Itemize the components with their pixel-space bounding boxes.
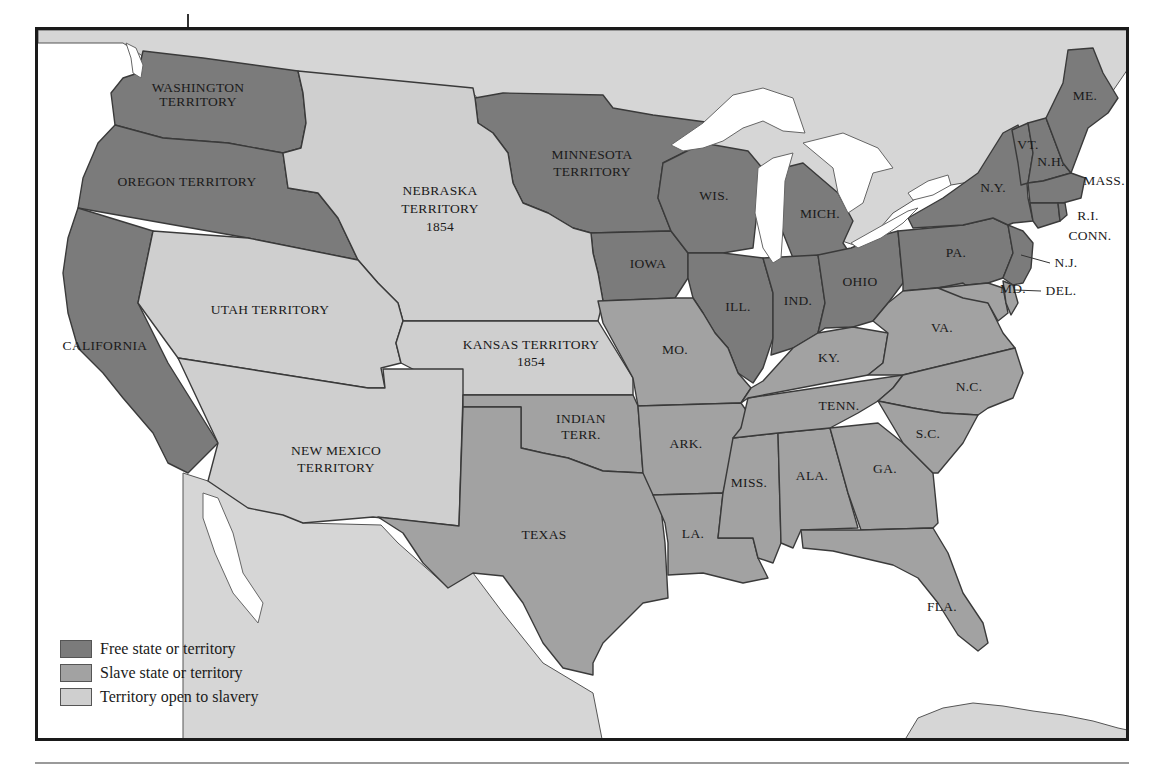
label-tennessee: TENN. xyxy=(819,398,860,413)
legend-label-free: Free state or territory xyxy=(100,640,236,658)
label-mississippi: MISS. xyxy=(731,475,767,490)
legend-item-slave: Slave state or territory xyxy=(60,661,258,685)
label-missouri: MO. xyxy=(662,342,688,357)
label-texas: TEXAS xyxy=(522,527,567,542)
label-illinois: ILL. xyxy=(725,299,751,314)
label-vermont: VT. xyxy=(1017,137,1038,152)
label-alabama: ALA. xyxy=(796,468,828,483)
label-indian-territory: INDIAN xyxy=(556,411,606,426)
label-new-jersey: N.J. xyxy=(1055,255,1078,270)
label-kentucky: KY. xyxy=(818,350,840,365)
label-new-mexico-sub: TERRITORY xyxy=(297,460,374,475)
label-oregon: OREGON TERRITORY xyxy=(118,174,257,189)
label-kansas-year: 1854 xyxy=(517,354,545,369)
label-nebraska: NEBRASKA xyxy=(402,183,477,198)
label-south-carolina: S.C. xyxy=(916,426,940,441)
label-utah: UTAH TERRITORY xyxy=(211,302,330,317)
label-massachusetts: MASS. xyxy=(1083,173,1125,188)
label-pennsylvania: PA. xyxy=(946,245,966,260)
label-georgia: GA. xyxy=(873,461,897,476)
label-maryland: MD. xyxy=(1000,281,1026,296)
legend-label-slave: Slave state or territory xyxy=(100,664,243,682)
us-map-1854: WASHINGTON TERRITORY OREGON TERRITORY CA… xyxy=(38,30,1129,741)
label-ohio: OHIO xyxy=(843,274,878,289)
label-michigan: MICH. xyxy=(800,206,840,221)
label-arkansas: ARK. xyxy=(669,436,702,451)
legend-swatch-slave xyxy=(60,664,92,682)
label-new-mexico: NEW MEXICO xyxy=(291,443,381,458)
label-north-carolina: N.C. xyxy=(956,379,983,394)
label-iowa: IOWA xyxy=(630,256,666,271)
label-indian-territory-sub: TERR. xyxy=(561,427,600,442)
label-kansas: KANSAS TERRITORY xyxy=(463,337,600,352)
bottom-rule-divider xyxy=(35,762,1129,764)
legend-swatch-free xyxy=(60,640,92,658)
label-nebraska-sub: TERRITORY xyxy=(401,201,478,216)
label-rhode-island: R.I. xyxy=(1077,208,1098,223)
map-legend: Free state or territory Slave state or t… xyxy=(60,637,258,709)
top-tick-mark xyxy=(187,14,189,28)
label-wisconsin: WIS. xyxy=(699,188,728,203)
label-connecticut: CONN. xyxy=(1068,228,1111,243)
label-minnesota-sub: TERRITORY xyxy=(553,164,630,179)
region-florida xyxy=(801,528,988,651)
legend-item-open: Territory open to slavery xyxy=(60,685,258,709)
map-frame: WASHINGTON TERRITORY OREGON TERRITORY CA… xyxy=(35,27,1129,741)
label-louisiana: LA. xyxy=(682,526,704,541)
label-maine: ME. xyxy=(1073,88,1098,103)
region-rhode-island xyxy=(1058,203,1067,221)
label-indiana: IND. xyxy=(784,293,813,308)
legend-swatch-open xyxy=(60,688,92,706)
legend-label-open: Territory open to slavery xyxy=(100,688,258,706)
region-connecticut xyxy=(1030,203,1060,228)
label-delaware: DEL. xyxy=(1046,283,1077,298)
label-new-york: N.Y. xyxy=(980,180,1006,195)
label-washington: WASHINGTON xyxy=(152,80,245,95)
label-florida: FLA. xyxy=(927,599,957,614)
label-minnesota: MINNESOTA xyxy=(551,147,632,162)
cuba-land xyxy=(903,703,1129,741)
label-new-hampshire: N.H. xyxy=(1037,154,1064,169)
label-nebraska-year: 1854 xyxy=(426,219,454,234)
label-california: CALIFORNIA xyxy=(63,338,148,353)
label-virginia: VA. xyxy=(931,320,953,335)
legend-item-free: Free state or territory xyxy=(60,637,258,661)
label-washington-sub: TERRITORY xyxy=(159,94,236,109)
